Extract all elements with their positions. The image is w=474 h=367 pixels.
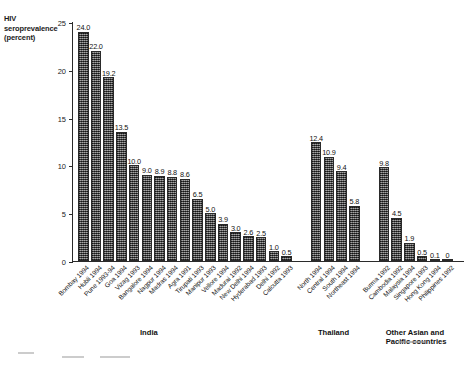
bar-slot: 4.5 [391,22,402,261]
bar-value-label: 0.1 [430,251,440,260]
group-caption: Other Asian and Pacific countries [386,328,447,346]
bar[interactable]: 8.8 [167,177,178,261]
bar-value-label: 0 [446,251,450,260]
bar-value-label: 3.0 [231,224,241,233]
bar-value-label: 10.0 [127,157,140,166]
bar-slot: 3.0 [230,22,241,261]
bar[interactable]: 24.0 [78,32,89,261]
bar-slot: 0.5 [417,22,428,261]
bar[interactable]: 19.2 [103,77,114,261]
bar[interactable]: 22.0 [91,51,102,261]
bar[interactable]: 9.4 [336,171,347,261]
bar-value-label: 5.8 [350,197,360,206]
bar-value-label: 19.2 [102,69,115,78]
x-axis-line [72,261,464,262]
scan-artifact [100,356,130,358]
bar-value-label: 24.0 [77,23,90,32]
bar-slot: 6.5 [192,22,203,261]
bar[interactable]: 5.0 [205,213,216,261]
bar-slot: 0 [442,22,453,261]
bar-value-label: 8.6 [180,170,190,179]
bar-slot: 0.5 [281,22,292,261]
bar-slot: 9.4 [336,22,347,261]
bar-slot: 13.5 [116,22,127,261]
bar-value-label: 13.5 [115,123,128,132]
bar-slot: 8.9 [154,22,165,261]
plot-area: 0510152025 24.022.019.213.510.09.08.98.8… [72,22,464,262]
bar[interactable]: 2.5 [256,237,267,261]
y-axis-tick-label: 5 [50,210,66,219]
bar-value-label: 9.0 [142,166,152,175]
bar-slot: 3.9 [218,22,229,261]
bar[interactable]: 1.0 [269,251,280,261]
bar-slot: 10.9 [324,22,335,261]
bar-value-label: 2.6 [244,228,254,237]
bar-value-label: 0.5 [417,248,427,257]
bar-value-label: 22.0 [89,42,102,51]
bar-slot: 1.9 [404,22,415,261]
bar[interactable]: 3.0 [230,232,241,261]
bar-slot: 10.0 [129,22,140,261]
bar-slot: 2.5 [256,22,267,261]
bar[interactable]: 2.6 [243,236,254,261]
bar-value-label: 2.5 [256,229,266,238]
bar-value-label: 4.5 [392,209,402,218]
bar[interactable]: 8.6 [180,179,191,261]
bar-value-label: 1.0 [269,243,279,252]
y-axis-tick-label: 20 [50,67,66,76]
bar[interactable]: 0 [442,259,453,261]
x-axis-category-labels: Bombay 1994Hubli 1994Pune 1993-94Goa 199… [72,264,472,324]
bar[interactable]: 9.8 [379,167,390,261]
bar[interactable]: 8.9 [154,176,165,261]
chart-figure: HIV seroprevalence (percent) 0510152025 … [0,0,474,367]
bar-series: 24.022.019.213.510.09.08.98.88.66.55.03.… [73,22,464,261]
y-axis-tick-mark [69,262,73,263]
bar-value-label: 3.9 [218,215,228,224]
scan-artifact [18,352,34,354]
bar-value-label: 6.5 [193,190,203,199]
scan-artifact [62,356,84,358]
bar-slot: 2.6 [243,22,254,261]
bar-slot: 24.0 [78,22,89,261]
scan-artifact [398,341,426,343]
bar[interactable]: 5.8 [349,206,360,261]
y-axis-tick-label: 15 [50,115,66,124]
bar-slot: 19.2 [103,22,114,261]
bar[interactable]: 1.9 [404,243,415,261]
bar-value-label: 12.4 [309,134,322,143]
bar-value-label: 9.4 [337,163,347,172]
bar[interactable]: 0.5 [281,256,292,261]
y-axis-tick-label: 0 [50,258,66,267]
bar-slot: 1.0 [269,22,280,261]
bar-value-label: 0.5 [282,248,292,257]
bar[interactable]: 10.9 [324,157,335,261]
bar-slot: 0.1 [430,22,441,261]
bar-value-label: 1.9 [405,234,415,243]
bar-slot: 5.0 [205,22,216,261]
bar-value-label: 5.0 [206,205,216,214]
bar-slot: 8.8 [167,22,178,261]
bar-value-label: 8.9 [155,167,165,176]
bar[interactable]: 4.5 [391,218,402,261]
bar-slot: 5.8 [349,22,360,261]
bar-value-label: 8.8 [167,168,177,177]
bar-value-label: 9.8 [379,159,389,168]
bar-value-label: 10.9 [322,148,335,157]
bar-slot: 9.0 [142,22,153,261]
bar[interactable]: 3.9 [218,224,229,261]
group-caption: Thailand [318,328,349,337]
bar[interactable]: 0.5 [417,256,428,261]
bar-slot: 9.8 [379,22,390,261]
bar[interactable]: 12.4 [311,142,322,261]
y-axis-title-line-3: (percent) [4,33,74,43]
bar[interactable]: 6.5 [192,199,203,261]
bar-slot: 22.0 [91,22,102,261]
bar-slot: 8.6 [180,22,191,261]
group-caption: India [140,328,158,337]
y-axis-tick-label: 10 [50,162,66,171]
y-axis-tick-label: 25 [50,19,66,28]
bar[interactable]: 0.1 [430,259,441,261]
bar[interactable]: 10.0 [129,165,140,261]
bar[interactable]: 13.5 [116,132,127,261]
bar[interactable]: 9.0 [142,175,153,261]
